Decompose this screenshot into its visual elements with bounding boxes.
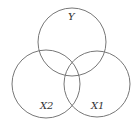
venn-diagram: Y X2 X1 xyxy=(0,0,137,121)
label-y: Y xyxy=(68,12,75,22)
label-x2: X2 xyxy=(40,101,53,111)
label-x1: X1 xyxy=(91,101,104,111)
